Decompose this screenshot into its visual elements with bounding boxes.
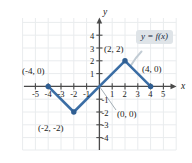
point-label-0-0: (0, 0) bbox=[117, 110, 137, 119]
xtick-4: 4 bbox=[148, 90, 152, 99]
data-point-neg2-neg2 bbox=[71, 109, 76, 114]
point-label-4-0: (4, 0) bbox=[142, 65, 162, 74]
xtick-2: 2 bbox=[123, 90, 127, 99]
function-graph-figure: x y -5 -4 -3 -2 -1 1 2 3 4 5 1 2 3 4 -1 … bbox=[0, 0, 192, 163]
function-callout: y = f(x) bbox=[136, 30, 173, 44]
ytick-2: 2 bbox=[90, 57, 94, 66]
point-label-2-2: (2, 2) bbox=[104, 45, 124, 54]
ytick-neg3: -3 bbox=[102, 121, 109, 130]
xtick-neg1: -1 bbox=[83, 90, 90, 99]
plot-canvas bbox=[0, 0, 192, 163]
y-axis-label: y bbox=[103, 8, 107, 18]
xtick-neg3: -3 bbox=[57, 90, 64, 99]
ytick-neg2: -2 bbox=[102, 109, 109, 118]
xtick-3: 3 bbox=[135, 90, 139, 99]
point-label-neg2-neg2: (-2, -2) bbox=[38, 124, 64, 133]
ytick-neg1: -1 bbox=[102, 96, 109, 105]
point-label-neg4-0: (-4, 0) bbox=[22, 67, 45, 76]
ytick-1: 1 bbox=[90, 70, 94, 79]
ytick-neg4: -4 bbox=[102, 134, 109, 143]
xtick-1: 1 bbox=[110, 90, 114, 99]
ytick-3: 3 bbox=[90, 45, 94, 54]
xtick-5: 5 bbox=[161, 90, 165, 99]
xtick-neg2: -2 bbox=[70, 90, 77, 99]
xtick-neg4: -4 bbox=[45, 90, 52, 99]
data-point-2-2 bbox=[122, 58, 127, 63]
x-axis-label: x bbox=[181, 82, 185, 92]
callout-leader-line bbox=[131, 52, 142, 67]
ytick-4: 4 bbox=[90, 32, 94, 41]
xtick-neg5: -5 bbox=[32, 90, 39, 99]
